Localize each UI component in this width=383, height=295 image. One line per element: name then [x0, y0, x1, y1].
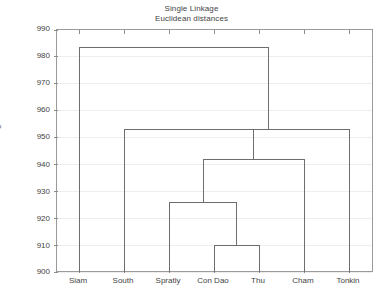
y-tick-mark-910 [54, 245, 58, 246]
y-tick-label-930: 930 [16, 187, 50, 196]
x-tick-mark-top-thu [259, 30, 260, 34]
x-axis-label-siam: Siam [69, 276, 87, 285]
y-tick-label-900: 900 [16, 267, 50, 276]
plot-area [56, 29, 373, 272]
gridline-970 [57, 83, 372, 84]
x-axis-label-south: South [113, 276, 134, 285]
gridline-940 [57, 164, 372, 165]
link-merge-m4 [124, 129, 254, 130]
link-node-m3-riser [253, 129, 254, 159]
link-node-m2-riser [203, 159, 204, 202]
link-leaf-siam [79, 47, 80, 272]
y-tick-label-980: 980 [16, 51, 50, 60]
y-tick-label-950: 950 [16, 132, 50, 141]
gridline-960 [57, 110, 372, 111]
y-tick-label-940: 940 [16, 160, 50, 169]
gridline-980 [57, 56, 372, 57]
link-merge-m5 [253, 129, 350, 130]
y-tick-mark-940 [54, 164, 58, 165]
y-tick-mark-900 [54, 272, 58, 273]
y-tick-mark-980 [54, 56, 58, 57]
x-axis-label-condao: Con Dao [197, 276, 229, 285]
y-tick-mark-950 [54, 137, 58, 138]
y-tick-label-970: 970 [16, 78, 50, 87]
x-tick-mark-top-south [124, 30, 125, 34]
gridline-930 [57, 191, 372, 192]
x-axis-label-cham: Cham [292, 276, 313, 285]
link-leaf-condao [214, 245, 215, 272]
x-axis-label-spratly: Spratly [156, 276, 181, 285]
y-tick-label-910: 910 [16, 241, 50, 250]
link-node-m1-riser [236, 202, 237, 245]
y-tick-label-960: 960 [16, 105, 50, 114]
chart-title-block: Single Linkage Euclidean distances [0, 4, 383, 24]
gridline-920 [57, 218, 372, 219]
link-merge-m2 [169, 202, 237, 203]
link-leaf-spratly [169, 202, 170, 272]
y-tick-label-990: 990 [16, 24, 50, 33]
x-tick-mark-top-spratly [169, 30, 170, 34]
chart-subtitle: Euclidean distances [0, 14, 383, 24]
x-tick-mark-top-cham [304, 30, 305, 34]
gridline-950 [57, 137, 372, 138]
y-tick-label-920: 920 [16, 214, 50, 223]
link-merge-m3 [203, 159, 305, 160]
link-node-m5-riser [268, 47, 269, 129]
link-merge-m1 [214, 245, 260, 246]
link-leaf-thu [259, 245, 260, 272]
link-leaf-cham [304, 159, 305, 272]
y-tick-mark-930 [54, 191, 58, 192]
y-tick-mark-990 [54, 30, 58, 31]
link-leaf-south [124, 129, 125, 272]
x-axis-label-tonkin: Tonkin [336, 276, 359, 285]
link-leaf-tonkin [349, 129, 350, 272]
chart-title: Single Linkage [0, 4, 383, 14]
y-axis-title: Linkage Distance [0, 87, 1, 148]
y-tick-mark-960 [54, 110, 58, 111]
x-tick-mark-top-tonkin [349, 30, 350, 34]
y-tick-mark-970 [54, 83, 58, 84]
link-merge-m6 [79, 47, 269, 48]
x-tick-mark-top-siam [79, 30, 80, 34]
x-tick-mark-top-condao [214, 30, 215, 34]
x-axis-label-thu: Thu [251, 276, 265, 285]
dendrogram-chart: Single Linkage Euclidean distances Linka… [0, 0, 383, 295]
y-tick-mark-920 [54, 218, 58, 219]
